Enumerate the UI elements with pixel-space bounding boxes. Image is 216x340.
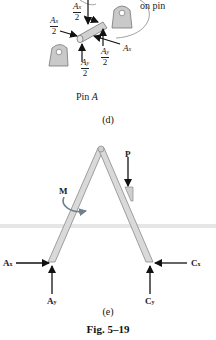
caption-d: (d) xyxy=(0,114,216,125)
label-ay-half-bottom: Ay 2 xyxy=(81,58,89,78)
label-sub: x xyxy=(10,261,13,267)
frame-member-right xyxy=(98,148,153,262)
label-ay-frame: Ay xyxy=(47,296,57,306)
pin-title-var: A xyxy=(92,91,98,102)
arrow-ax xyxy=(94,36,120,44)
label-sub: x xyxy=(56,18,59,24)
bracket-left-icon xyxy=(49,45,68,67)
label-ax-half-top: Ax 2 xyxy=(73,2,81,22)
joint-b xyxy=(98,146,104,152)
caption-e: (e) xyxy=(0,306,216,317)
label-den: 2 xyxy=(50,26,58,36)
on-pin-annotation: on pin xyxy=(140,0,165,11)
label-p: P xyxy=(125,149,131,159)
label-den: 2 xyxy=(81,68,89,78)
label-sub: x xyxy=(129,46,132,52)
arrow-ax-half-top-diag xyxy=(84,16,98,22)
label-sub: x xyxy=(198,261,201,267)
figure-caption: Fig. 5–19 xyxy=(0,323,216,335)
label-ax: Ax xyxy=(123,43,131,53)
label-cx-frame: Cx xyxy=(191,258,201,268)
label-sub: x xyxy=(79,4,82,10)
label-sub: y xyxy=(54,299,57,305)
pin-title-text: Pin xyxy=(76,91,89,102)
frame-member-left xyxy=(48,148,104,262)
label-ax-frame: Ax xyxy=(3,258,13,268)
arrow-ax-half-left xyxy=(60,31,77,36)
label-sub: y xyxy=(107,49,110,55)
label-ax-half-left: Ax 2 xyxy=(50,16,58,36)
label-cy-frame: Cy xyxy=(145,296,155,306)
label-den: 2 xyxy=(73,12,81,22)
page-shadow xyxy=(0,224,216,228)
label-ay-half-right: Ay 2 xyxy=(101,47,109,67)
pin-a-title: Pin A xyxy=(76,91,98,102)
label-m: M xyxy=(59,186,68,196)
label-sub: y xyxy=(87,60,90,66)
label-sub: y xyxy=(152,299,155,305)
bracket-right-icon xyxy=(112,6,132,28)
label-den: 2 xyxy=(101,57,109,67)
